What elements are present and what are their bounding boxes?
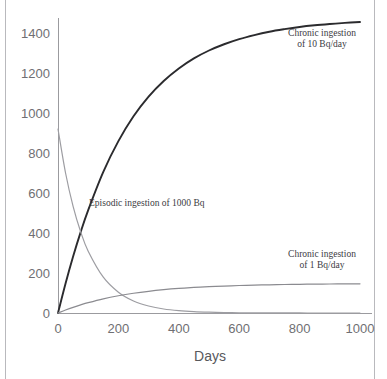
y-tick-label: 400: [28, 226, 50, 241]
annot-chronic-1: Chronic ingestionof 1 Bq/day: [288, 249, 356, 270]
annotation-line: of 10 Bq/day: [297, 39, 347, 49]
y-tick-label: 1000: [21, 106, 50, 121]
y-tick-label: 1400: [21, 26, 50, 41]
x-axis-title: Days: [194, 348, 226, 364]
annotation-line: of 1 Bq/day: [300, 260, 345, 270]
x-tick-label: 0: [54, 321, 61, 336]
x-tick-label: 200: [108, 321, 130, 336]
y-tick-label: 800: [28, 146, 50, 161]
line-chart: 0200400600800100012001400 02004006008001…: [0, 0, 387, 379]
series-line-3: [58, 284, 360, 313]
y-tick-label: 200: [28, 266, 50, 281]
annotation-line: Episodic ingestion of 1000 Bq: [89, 198, 205, 208]
annot-episodic: Episodic ingestion of 1000 Bq: [89, 198, 205, 208]
y-tick-label: 0: [43, 306, 50, 321]
series-line-2: [58, 129, 360, 313]
annot-chronic-10: Chronic ingestionof 10 Bq/day: [288, 28, 356, 49]
x-tick-label: 400: [168, 321, 190, 336]
y-tick-label: 1200: [21, 66, 50, 81]
x-tick-label: 600: [228, 321, 250, 336]
annotation-line: Chronic ingestion: [288, 28, 356, 38]
x-tick-labels: 02004006008001000: [54, 321, 374, 336]
x-tick-label: 1000: [346, 321, 375, 336]
x-tick-label: 800: [289, 321, 311, 336]
y-tick-label: 600: [28, 186, 50, 201]
annotation-line: Chronic ingestion: [288, 249, 356, 259]
figure-container: 0200400600800100012001400 02004006008001…: [0, 0, 387, 379]
annotation-layer: Chronic ingestionof 10 Bq/dayEpisodic in…: [89, 28, 356, 270]
y-tick-labels: 0200400600800100012001400: [21, 26, 50, 321]
